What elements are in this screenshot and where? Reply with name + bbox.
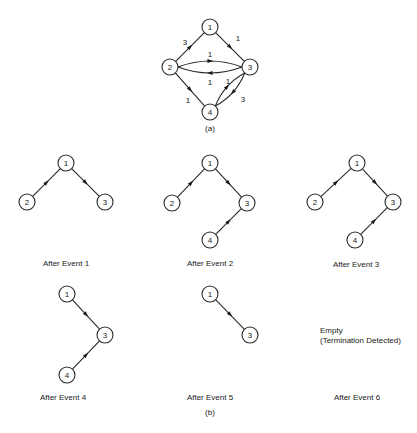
node-label: 2 bbox=[168, 63, 173, 72]
node-a-3: 3 bbox=[242, 59, 258, 75]
node-label: 2 bbox=[25, 198, 30, 207]
edge-a-3-2-lower-arrow bbox=[207, 71, 213, 75]
panel-caption-event-2: After Event 2 bbox=[187, 259, 234, 268]
termination-detected-note: (Termination Detected) bbox=[320, 336, 401, 345]
empty-note: Empty bbox=[320, 326, 343, 335]
node-a-1: 1 bbox=[202, 19, 218, 35]
part-a-label: (a) bbox=[205, 124, 215, 133]
node-label: 4 bbox=[65, 371, 70, 380]
panel-caption-event-1: After Event 1 bbox=[43, 259, 90, 268]
node-a-2: 2 bbox=[162, 59, 178, 75]
node-b3-2: 2 bbox=[307, 194, 323, 210]
edge-a-2-3-upper-arrow bbox=[207, 59, 213, 63]
node-a-4: 4 bbox=[202, 104, 218, 120]
node-label: 2 bbox=[170, 199, 175, 208]
node-label: 4 bbox=[208, 236, 213, 245]
node-label: 1 bbox=[355, 159, 360, 168]
node-label: 1 bbox=[64, 159, 69, 168]
node-label: 3 bbox=[391, 198, 396, 207]
node-label: 3 bbox=[245, 199, 250, 208]
node-b1-2: 2 bbox=[19, 194, 35, 210]
edge-weight-a-2-3: 1 bbox=[208, 50, 213, 59]
node-b3-1: 1 bbox=[349, 155, 365, 171]
node-label: 1 bbox=[208, 23, 213, 32]
node-label: 3 bbox=[248, 63, 253, 72]
node-label: 1 bbox=[65, 290, 70, 299]
edge-weight-a-3-4: 3 bbox=[241, 95, 246, 104]
node-label: 3 bbox=[103, 331, 108, 340]
panel-caption-event-3: After Event 3 bbox=[333, 260, 380, 269]
node-b2-4: 4 bbox=[202, 232, 218, 248]
panel-caption-event-4: After Event 4 bbox=[40, 393, 87, 402]
node-b2-2: 2 bbox=[164, 195, 180, 211]
termination-detection-figure: 12341231234123413413 (a) (b) After Event… bbox=[0, 0, 417, 433]
edge-weight-a-2-4: 1 bbox=[186, 96, 191, 105]
node-b1-3: 3 bbox=[97, 194, 113, 210]
node-label: 4 bbox=[208, 108, 213, 117]
node-b4-4: 4 bbox=[59, 367, 75, 383]
node-b3-4: 4 bbox=[347, 232, 363, 248]
node-b1-1: 1 bbox=[58, 155, 74, 171]
edge-weight-a-2-1: 3 bbox=[183, 38, 188, 47]
node-b3-3: 3 bbox=[385, 194, 401, 210]
node-label: 1 bbox=[208, 290, 213, 299]
node-b5-3: 3 bbox=[242, 327, 258, 343]
node-label: 3 bbox=[103, 198, 108, 207]
part-b-label: (b) bbox=[205, 408, 215, 417]
node-label: 4 bbox=[353, 236, 358, 245]
node-b4-1: 1 bbox=[59, 286, 75, 302]
edge-weight-a-4-3: 1 bbox=[226, 77, 231, 86]
node-b2-3: 3 bbox=[239, 195, 255, 211]
edge-weight-a-1-3: 1 bbox=[236, 34, 241, 43]
node-b4-3: 3 bbox=[97, 327, 113, 343]
node-label: 3 bbox=[248, 331, 253, 340]
edge-weight-a-3-2: 1 bbox=[208, 78, 213, 87]
panel-caption-event-6: After Event 6 bbox=[334, 393, 381, 402]
panel-caption-event-5: After Event 5 bbox=[187, 393, 234, 402]
node-label: 2 bbox=[313, 198, 318, 207]
node-b2-1: 1 bbox=[202, 155, 218, 171]
node-b5-1: 1 bbox=[202, 286, 218, 302]
node-label: 1 bbox=[208, 159, 213, 168]
